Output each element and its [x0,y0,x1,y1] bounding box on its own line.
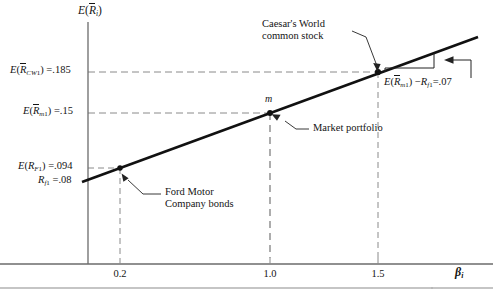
x-tick-label-1-0: 1.0 [255,268,285,279]
y-axis-label: E(Ri) [78,4,102,19]
annotation-caesars-line2: common stock [262,30,325,42]
y-label-ford: E(RF1) =.094 [18,160,72,173]
market-point-letter: m [265,93,272,104]
chart-canvas [0,0,493,305]
security-market-line [82,37,478,182]
bottom-rule-speck [431,287,433,289]
data-point-market [267,110,273,116]
annotation-market: Market portfolio [313,122,383,134]
y-value-caesars: .185 [52,64,70,75]
annotation-ford-line2: Company bonds [165,198,234,210]
annotation-market-text: Market portfolio [313,122,383,133]
annotation-ford-line1: Ford Motor [165,186,234,198]
annotation-caesars: Caesar's World common stock [262,18,325,42]
leader-market-arrowhead [272,114,281,121]
y-label-market: E(Rm1) =.15 [23,105,73,118]
leader-caesars [352,31,377,66]
x-axis-label: βi [455,266,463,281]
annotation-ford: Ford Motor Company bonds [165,186,234,210]
annotation-caesars-line1: Caesar's World [262,18,325,30]
x-tick-label-0-2: 0.2 [105,268,135,279]
annotation-risk-premium: E(Rm1) −Rf1=.07 [384,76,452,89]
leader-ford [128,180,143,194]
market-point-letter-text: m [265,93,272,104]
leader-ford-arrowhead [122,174,129,182]
y-value-market: .15 [60,105,73,116]
premium-arrow-head [444,56,454,64]
y-value-riskfree: .08 [58,174,71,185]
sml-figure: E(Ri) E(RCW1) =.185 E(Rm1) =.15 E(RF1) =… [0,0,493,305]
y-value-ford: .094 [54,160,72,171]
leader-market [285,121,296,129]
x-tick-label-1-5: 1.5 [363,268,393,279]
data-point-ford [117,165,122,170]
y-label-caesars: E(RCW1) =.185 [10,64,71,77]
y-label-riskfree: Rf1 =.08 [38,174,72,187]
risk-premium-value: .07 [439,76,452,87]
